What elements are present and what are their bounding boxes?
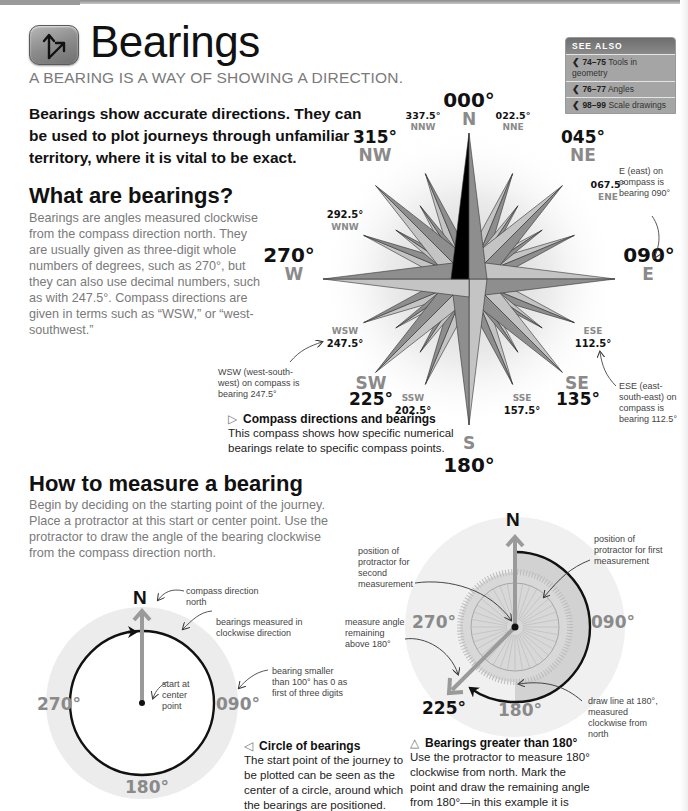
annotation-remaining: measure angle remaining above 180° (345, 617, 409, 650)
label-270-2: 270° (412, 612, 456, 632)
caption-marker-icon: △ (410, 736, 419, 750)
label-180: 180° (125, 777, 169, 797)
annotation-second-protractor: position of protractor for second measur… (358, 546, 420, 590)
annotation-smaller: bearing smaller than 100° has 0 as first… (272, 666, 352, 699)
label-225: 225° (422, 698, 466, 718)
annotation-first-protractor: position of protractor for first measure… (594, 534, 668, 567)
north-label: N (133, 587, 147, 609)
annotation-clockwise: bearings measured in clockwise direction (216, 617, 306, 639)
annotation-arrow (652, 216, 659, 258)
label-180-2: 180° (498, 700, 542, 720)
label-090-2: 090° (591, 612, 635, 632)
annotation-draw-line: draw line at 180°, measured clockwise fr… (588, 696, 668, 740)
annotation-north: compass direction north (186, 586, 260, 608)
greater-caption: △Bearings greater than 180° Use the prot… (410, 736, 590, 811)
circle-caption: ◁Circle of bearings The start point of t… (244, 739, 404, 811)
label-270: 270° (37, 694, 81, 714)
annotation-center: start at center point (162, 679, 198, 712)
caption-marker-icon: ◁ (244, 739, 253, 753)
label-090: 090° (216, 694, 260, 714)
north-label-2: N (506, 509, 520, 531)
